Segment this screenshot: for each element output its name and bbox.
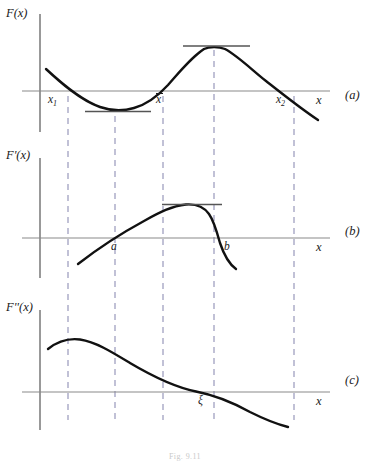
panel-b-y-axis-label: F'(x)	[6, 148, 30, 163]
panel-a-x-axis-label: x	[316, 93, 322, 108]
panel-label-b: (b)	[345, 224, 360, 239]
tick-label-x2: x2	[276, 93, 285, 108]
tick-label-x1: x1	[48, 93, 57, 108]
panel-label-a: (a)	[345, 88, 360, 103]
panel-a-y-axis-label: F(x)	[6, 6, 28, 21]
panel-c-curve	[48, 339, 288, 427]
tick-label-a: a	[111, 240, 117, 252]
panel-c-x-axis-label: x	[316, 394, 322, 409]
panel-a	[22, 14, 330, 132]
tick-label-b: b	[224, 240, 230, 252]
panel-a-curve	[46, 47, 318, 120]
panel-b-x-axis-label: x	[316, 240, 322, 255]
panel-label-c: (c)	[345, 373, 359, 388]
figure-container: F(x) x1 x x2 x (a) F'(x) a b x (b) F''(x…	[0, 0, 376, 462]
tick-label-xbar: x	[156, 93, 161, 105]
tick-label-xi: ξ	[198, 394, 203, 406]
figure-canvas	[0, 0, 376, 462]
figure-caption: Fig. 9.11	[169, 452, 201, 461]
panel-c-y-axis-label: F''(x)	[6, 300, 33, 315]
guide-lines-group	[68, 50, 294, 420]
panel-b-curve	[78, 204, 236, 269]
